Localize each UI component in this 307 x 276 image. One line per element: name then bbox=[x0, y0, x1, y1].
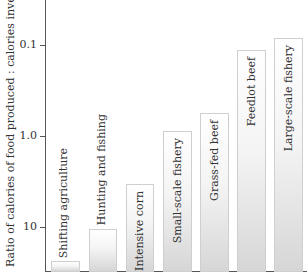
bar-large-scale-fishery: Large-scale fishery bbox=[274, 38, 303, 272]
bar-label: Small-scale fishery bbox=[171, 138, 185, 243]
y-tick-label: 10 bbox=[0, 221, 37, 233]
y-tick-10 bbox=[40, 227, 46, 228]
bar-small-scale-fishery: Small-scale fishery bbox=[163, 131, 192, 272]
bar-feedlot-beef: Feedlot beef bbox=[237, 50, 266, 272]
bar-label-wrap: Hunting and fishing bbox=[94, 100, 110, 225]
y-tick-1.0 bbox=[40, 136, 46, 137]
bar-label: Shifting agriculture bbox=[57, 148, 71, 258]
bar-label: Feedlot beef bbox=[245, 57, 259, 126]
bar-label: Intensive corn bbox=[133, 191, 147, 271]
bar-label: Grass-fed beef bbox=[208, 120, 222, 201]
y-tick-0.1 bbox=[40, 45, 46, 46]
y-tick-label: 0.1 bbox=[0, 39, 37, 51]
bar-label: Large-scale fishery bbox=[282, 45, 296, 151]
bar-label-wrap: Shifting agriculture bbox=[56, 140, 72, 258]
bar-hunting-and-fishing bbox=[89, 229, 117, 272]
bar-intensive-corn: Intensive corn bbox=[126, 184, 154, 272]
bar-shifting-agriculture bbox=[51, 261, 80, 272]
bar-grass-fed-beef: Grass-fed beef bbox=[200, 113, 229, 272]
bar-label: Hunting and fishing bbox=[95, 114, 109, 225]
y-tick-label: 1.0 bbox=[0, 130, 37, 142]
